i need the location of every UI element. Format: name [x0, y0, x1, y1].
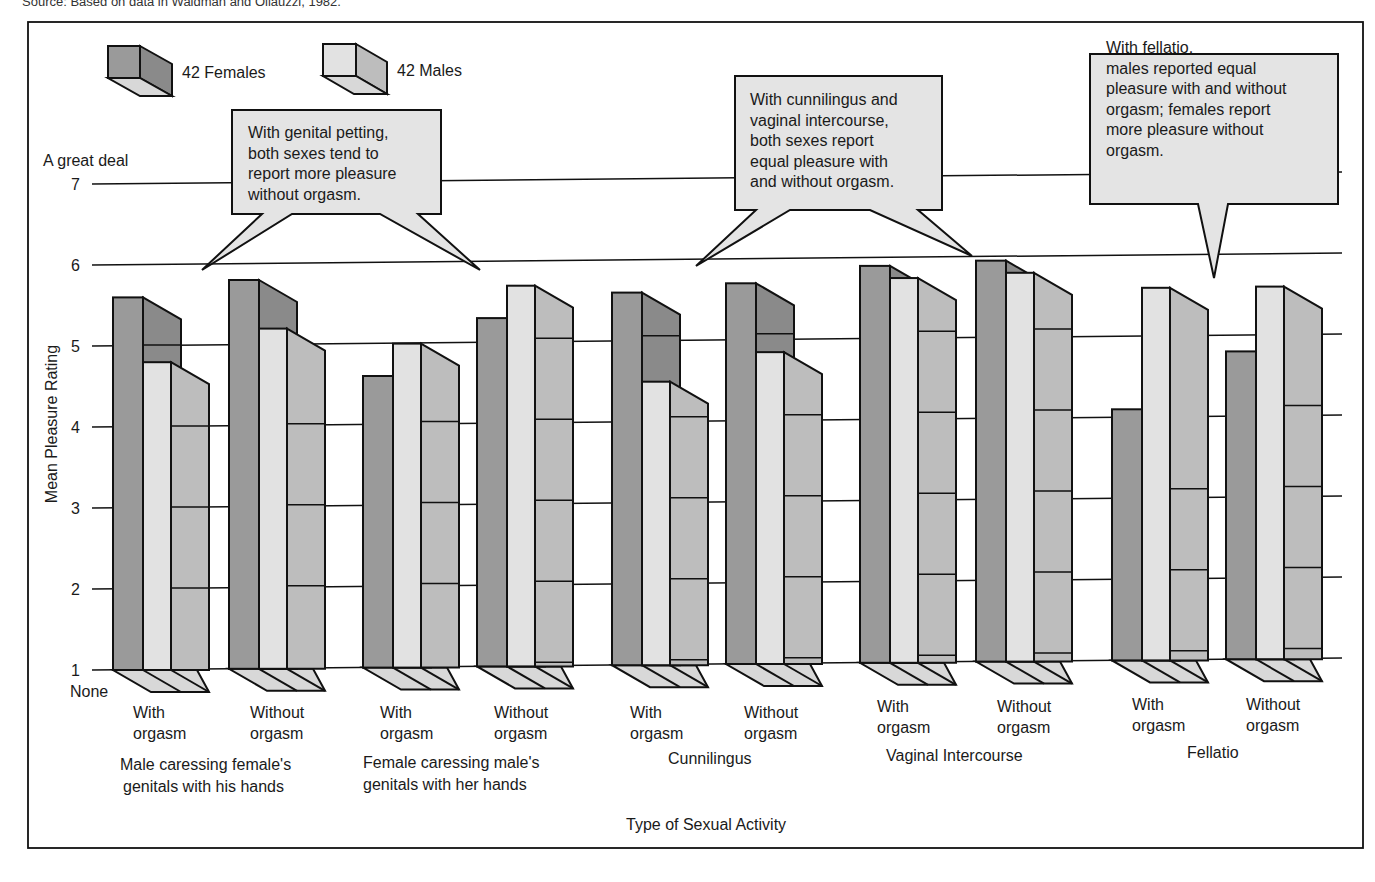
- female-bar: [1226, 351, 1256, 659]
- bar-condition-label: orgasm: [877, 719, 930, 736]
- male-bar: [1142, 288, 1170, 661]
- y-tick-label: 4: [71, 419, 80, 436]
- bar-condition-label: Without: [1246, 696, 1301, 713]
- bar-pair: [612, 293, 708, 688]
- callout-line: equal pleasure with: [750, 153, 888, 170]
- y-bottom-anchor-label: None: [70, 683, 108, 700]
- bar-condition-label: orgasm: [380, 725, 433, 742]
- callout-line: both sexes report: [750, 132, 874, 149]
- y-tick-label: 6: [71, 257, 80, 274]
- activity-group-label: Fellatio: [1187, 744, 1239, 761]
- y-top-anchor-label: A great deal: [43, 152, 128, 169]
- female-bar: [363, 376, 393, 668]
- male-bar: [1006, 273, 1034, 662]
- female-bar: [1112, 409, 1142, 660]
- activity-group-label: Vaginal Intercourse: [886, 747, 1023, 764]
- bar-pair: [726, 283, 822, 686]
- bar-pair: [860, 266, 956, 685]
- female-bar: [477, 318, 507, 666]
- male-bar-side: [535, 286, 573, 667]
- bar-condition-label: Without: [494, 704, 549, 721]
- male-bar-side: [171, 362, 209, 670]
- x-axis-labels: WithorgasmWithoutorgasmWithorgasmWithout…: [120, 696, 1301, 795]
- male-bar: [890, 278, 918, 663]
- activity-group-label: genitals with her hands: [363, 776, 527, 793]
- male-bar: [642, 382, 670, 666]
- bar-pair: [477, 286, 573, 689]
- male-bar-side: [670, 382, 708, 666]
- callout-line: and without orgasm.: [750, 173, 894, 190]
- bar-condition-label: Without: [997, 698, 1052, 715]
- female-bar: [612, 293, 642, 666]
- male-bar: [259, 329, 287, 669]
- callout-line: orgasm; females report: [1106, 101, 1271, 118]
- bar-condition-label: With: [380, 704, 412, 721]
- bar-condition-label: orgasm: [744, 725, 797, 742]
- female-bar: [229, 280, 259, 669]
- callout-cunnilingus-vaginal: With cunnilingus andvaginal intercourse,…: [696, 76, 972, 266]
- y-tick-label: 7: [71, 176, 80, 193]
- legend-female-label: 42 Females: [182, 64, 266, 81]
- source-note: Source: Based on data in Waldman and Oli…: [22, 0, 341, 9]
- female-bar: [113, 297, 143, 670]
- female-bar: [976, 261, 1006, 662]
- activity-group-label: Male caressing female's: [120, 756, 291, 773]
- legend-male-swatch-icon: [323, 44, 387, 94]
- male-bar: [393, 344, 421, 668]
- male-bar-side: [1170, 288, 1208, 661]
- callout-line: report more pleasure: [248, 165, 397, 182]
- callout-line: With fellatio,: [1106, 39, 1193, 56]
- male-bar-side: [421, 344, 459, 668]
- male-bar: [756, 352, 784, 664]
- bar-condition-label: orgasm: [630, 725, 683, 742]
- bar-condition-label: orgasm: [1246, 717, 1299, 734]
- bar-pair: [1226, 287, 1322, 682]
- pleasure-rating-chart: Source: Based on data in Waldman and Oli…: [0, 0, 1375, 882]
- y-axis-title: Mean Pleasure Rating: [43, 345, 60, 503]
- female-bar: [860, 266, 890, 663]
- x-axis-title: Type of Sexual Activity: [626, 816, 786, 833]
- callout-line: without orgasm.: [247, 186, 361, 203]
- legend-female-swatch-icon: [108, 46, 172, 96]
- bar-groups: [113, 261, 1322, 692]
- callout-line: both sexes tend to: [248, 145, 379, 162]
- male-bar: [1256, 287, 1284, 660]
- bar-pair: [363, 344, 459, 690]
- y-tick-label: 2: [71, 581, 80, 598]
- activity-group-label: Female caressing male's: [363, 754, 539, 771]
- male-bar-side: [918, 278, 956, 663]
- callout-line: orgasm.: [1106, 142, 1164, 159]
- male-bar: [507, 286, 535, 667]
- male-bar-side: [1034, 273, 1072, 662]
- legend-male-label: 42 Males: [397, 62, 462, 79]
- y-tick-label: 3: [71, 500, 80, 517]
- male-bar: [143, 362, 171, 670]
- y-tick-labels: 1234567: [71, 176, 80, 679]
- callout-line: vaginal intercourse,: [750, 112, 889, 129]
- bar-condition-label: With: [1132, 696, 1164, 713]
- male-bar-side: [287, 329, 325, 669]
- bar-pair: [1112, 288, 1208, 683]
- callout-genital-petting: With genital petting,both sexes tend tor…: [202, 110, 480, 270]
- activity-group-label: Cunnilingus: [668, 750, 752, 767]
- legend: 42 Females 42 Males: [108, 44, 462, 96]
- bar-condition-label: With: [877, 698, 909, 715]
- bar-condition-label: orgasm: [133, 725, 186, 742]
- callout-line: males reported equal: [1106, 60, 1256, 77]
- bar-pair: [113, 297, 209, 692]
- bar-pair: [229, 280, 325, 691]
- callout-line: With genital petting,: [248, 124, 389, 141]
- female-bar: [726, 283, 756, 664]
- bar-condition-label: orgasm: [997, 719, 1050, 736]
- callout-line: pleasure with and without: [1106, 80, 1287, 97]
- y-tick-label: 5: [71, 338, 80, 355]
- male-bar-side: [784, 352, 822, 664]
- bar-pair: [976, 261, 1072, 684]
- bar-condition-label: Without: [744, 704, 799, 721]
- activity-group-label: genitals with his hands: [123, 778, 284, 795]
- callout-fellatio: With fellatio,males reported equalpleasu…: [1090, 39, 1338, 278]
- bar-condition-label: With: [133, 704, 165, 721]
- bar-condition-label: Without: [250, 704, 305, 721]
- bar-condition-label: orgasm: [250, 725, 303, 742]
- male-bar-side: [1284, 287, 1322, 660]
